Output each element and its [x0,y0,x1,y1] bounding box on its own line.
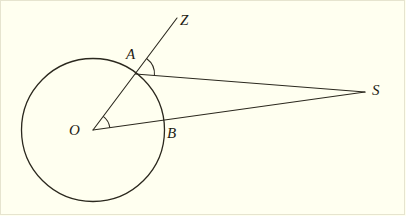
label-point-b: B [167,126,176,141]
label-point-s: S [372,83,380,98]
label-point-z: Z [180,13,188,28]
figure-canvas [0,0,406,216]
geometry-figure: O A B Z S [0,0,406,216]
label-point-a: A [126,47,135,62]
label-point-o: O [69,123,80,138]
figure-background [0,0,406,216]
